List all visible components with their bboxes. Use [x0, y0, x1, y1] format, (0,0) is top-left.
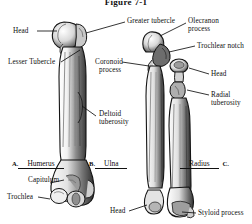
leader-trochlear-notch: [169, 46, 195, 52]
leader-coronoid: [122, 62, 149, 66]
bone-name-radius: Radius: [180, 159, 219, 169]
label-deltoid-tuberosity-line1: Deltoid: [99, 110, 121, 118]
label-coronoid-line1: Coronoid: [95, 58, 123, 66]
radius-bone: [167, 59, 194, 218]
label-head-radius: Head: [211, 70, 227, 78]
anatomy-figure: Figure 7-1: [0, 0, 252, 224]
label-olecranon-line1: Olecranon: [188, 17, 219, 25]
label-head-distal-ulna: Head: [110, 207, 126, 215]
label-head-humerus: Head: [13, 27, 29, 35]
label-greater-tubercle: Greater tubercle: [127, 17, 175, 25]
bone-marker-c: C.: [219, 160, 229, 167]
label-styloid-process: Styloid process: [198, 209, 244, 217]
bone-name-ulna: Ulna: [95, 159, 127, 169]
leader-head-radius: [189, 68, 209, 74]
label-radial-tuberosity-line1: Radial: [211, 91, 230, 99]
label-trochlear-notch: Trochlear notch: [197, 42, 244, 50]
leader-trochlea: [38, 197, 50, 199]
bone-label-humerus: A.Humerus: [12, 159, 64, 169]
bone-label-ulna: B.Ulna: [89, 159, 127, 169]
label-capitulum: Capitulum: [28, 176, 59, 184]
label-deltoid-tuberosity-line2: tuberosity: [99, 118, 129, 126]
leader-head-ulna: [129, 205, 147, 211]
label-trochlea: Trochlea: [7, 193, 33, 201]
bone-illustration: [0, 0, 252, 224]
label-olecranon-line2: process: [188, 25, 210, 33]
ulna-bone: [143, 32, 170, 214]
label-coronoid-line2: process: [99, 66, 121, 74]
label-lesser-tubercle: Lesser Tubercle: [8, 58, 55, 66]
bone-name-humerus: Humerus: [18, 159, 63, 169]
leader-greater-tubercle: [86, 22, 125, 33]
leader-radial-tuberosity: [187, 90, 209, 95]
bone-label-radius: RadiusC.: [180, 159, 229, 169]
label-radial-tuberosity-line2: tuberosity: [211, 99, 241, 107]
